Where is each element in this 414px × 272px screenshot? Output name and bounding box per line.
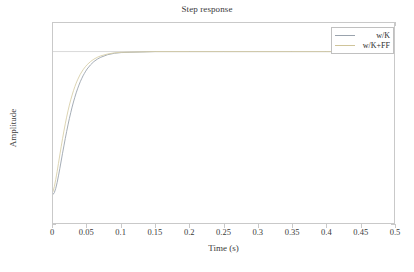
- x-tick-mark: [224, 224, 225, 228]
- x-tick-mark: [258, 224, 259, 228]
- x-tick-mark: [86, 224, 87, 228]
- x-tick-label: 0.1: [115, 227, 126, 237]
- legend-item[interactable]: w/K+FF: [335, 40, 390, 50]
- legend-label: w/K+FF: [359, 41, 390, 50]
- x-tick-mark: [395, 224, 396, 228]
- series-line-0: [53, 52, 394, 195]
- x-tick-label: 0.3: [252, 227, 263, 237]
- x-tick-mark: [121, 224, 122, 228]
- series-line-1: [53, 52, 394, 192]
- x-tick-mark: [189, 224, 190, 228]
- x-tick-label: 0.35: [285, 227, 300, 237]
- x-tick-mark: [52, 224, 53, 228]
- chart-figure: Step response Amplitude Time (s) 1.210.8…: [0, 0, 414, 272]
- series-layer: [53, 52, 394, 195]
- legend-label: w/K: [359, 31, 390, 40]
- x-tick-mark: [326, 224, 327, 228]
- chart-legend[interactable]: w/Kw/K+FF: [331, 27, 394, 54]
- legend-line-swatch: [335, 35, 355, 36]
- x-tick-label: 0.4: [321, 227, 332, 237]
- legend-item[interactable]: w/K: [335, 30, 390, 40]
- x-tick-label: 0.25: [216, 227, 231, 237]
- x-tick-label: 0.5: [390, 227, 401, 237]
- x-tick-mark: [155, 224, 156, 228]
- x-tick-mark: [292, 224, 293, 228]
- legend-line-swatch: [335, 45, 355, 46]
- x-tick-mark: [361, 224, 362, 228]
- x-axis-label: Time (s): [52, 243, 395, 253]
- chart-title: Step response: [0, 4, 414, 14]
- x-tick-label: 0.45: [353, 227, 368, 237]
- x-tick-label: 0.05: [79, 227, 94, 237]
- x-tick-label: 0.15: [147, 227, 162, 237]
- x-tick-label: 0: [50, 227, 54, 237]
- y-axis-label: Amplitude: [8, 88, 18, 168]
- x-tick-mark: [395, 22, 396, 26]
- x-tick-label: 0.2: [184, 227, 195, 237]
